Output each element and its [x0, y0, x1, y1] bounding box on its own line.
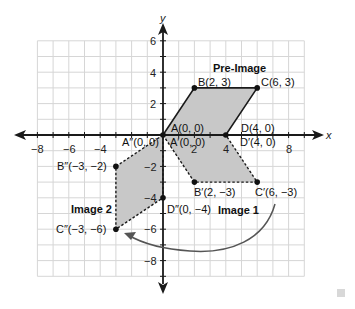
y-tick-label: 2 — [150, 98, 156, 110]
vertex-label-d-double-prime: D″(0, −4) — [167, 203, 211, 215]
y-tick-label: −2 — [144, 161, 157, 173]
vertex-label-a-double-prime: A″(0, 0) — [122, 136, 159, 148]
vertex-label-c-prime: C′(6, −3) — [255, 186, 297, 198]
y-tick-label: −4 — [144, 192, 157, 204]
vertex-label-d-prime: D′(4, 0) — [240, 136, 276, 148]
x-tick-label: −4 — [94, 143, 107, 155]
x-tick-label: −6 — [63, 143, 76, 155]
y-tick-label: 4 — [150, 67, 156, 79]
vertex-label-c: C(6, 3) — [261, 76, 295, 88]
vertex-label-a: A(0, 0) — [171, 122, 204, 134]
y-tick-label: −6 — [144, 223, 157, 235]
x-axis-label: x — [325, 129, 332, 141]
vertex-label-d: D(4, 0) — [241, 122, 275, 134]
vertex-label-b-prime: B′(2, −3) — [194, 186, 236, 198]
y-axis-label: y — [159, 12, 167, 24]
y-tick-label: 6 — [150, 35, 156, 47]
coordinate-plane: y x −8 −6 −4 2 4 8 6 4 2 −2 −4 −6 −8 Pre… — [0, 0, 355, 309]
x-tick-label: 8 — [286, 143, 292, 155]
vertex-label-b: B(2, 3) — [198, 76, 231, 88]
image-1-title: Image 1 — [218, 204, 259, 216]
x-tick-label: −8 — [31, 143, 44, 155]
x-tick-label: 4 — [223, 143, 229, 155]
vertex-label-b-double-prime: B″(−3, −2) — [57, 160, 107, 172]
image-2-shape — [116, 135, 163, 229]
image-2-title: Image 2 — [71, 203, 112, 215]
corner-marker — [337, 289, 345, 297]
y-tick-label: −8 — [144, 255, 157, 267]
vertex-label-a-prime: A′(0, 0) — [170, 136, 205, 148]
vertex-label-c-double-prime: C″(−3, −6) — [56, 223, 106, 235]
pre-image-title: Pre-Image — [213, 62, 266, 74]
